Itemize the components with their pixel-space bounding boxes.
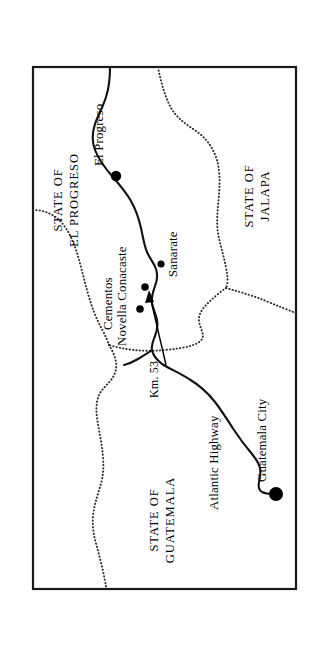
- label-place-sanarate-text: Sanarate: [166, 231, 180, 277]
- label-plant-novella-conacaste: Novella Conacaste: [115, 246, 129, 346]
- label-state-jalapa-line1: STATE OF: [242, 164, 256, 227]
- label-plant-cementos-line1: Cementos: [101, 277, 115, 330]
- map-container: STATE OF EL PROGRESO STATE OF JALAPA STA…: [0, 0, 328, 658]
- label-state-guatemala-line2: GUATEMALA: [163, 477, 177, 563]
- label-plant-cementos: Cementos: [101, 277, 115, 330]
- label-atlantic-highway-text: Atlantic Highway: [207, 415, 221, 510]
- label-place-sanarate: Sanarate: [166, 231, 180, 277]
- label-km-53: Km. 53: [147, 361, 161, 398]
- label-plant-cementos-line2: Novella Conacaste: [115, 246, 129, 346]
- label-state-el-progreso-line1: STATE OF: [51, 168, 65, 231]
- label-state-jalapa-line2: JALAPA: [258, 170, 272, 221]
- label-place-guatemala-city-text: Guatemala City: [255, 398, 269, 482]
- label-state-guatemala-line1: STATE OF: [147, 488, 161, 551]
- label-place-guatemala-city: Guatemala City: [255, 398, 269, 482]
- dot-guatemala-city: [269, 487, 283, 501]
- dot-cementos-novella-conacaste: [141, 283, 149, 291]
- dot-el-progreso: [111, 171, 121, 181]
- dot-cementos-secondary-site: [136, 305, 144, 313]
- label-state-el-progreso-line2: EL PROGRESO: [67, 153, 81, 247]
- label-place-el-progreso: El Progreso: [92, 104, 106, 166]
- label-atlantic-highway: Atlantic Highway: [207, 415, 221, 510]
- dot-sanarate: [157, 260, 164, 267]
- label-km-53-text: Km. 53: [147, 361, 161, 398]
- map-svg: STATE OF EL PROGRESO STATE OF JALAPA STA…: [0, 0, 328, 658]
- label-place-el-progreso-text: El Progreso: [92, 104, 106, 166]
